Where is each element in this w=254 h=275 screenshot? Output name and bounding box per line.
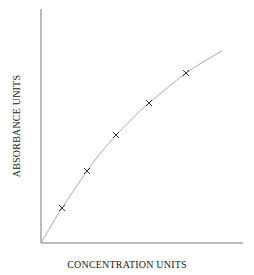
x-marker bbox=[146, 100, 152, 106]
fit-curve bbox=[41, 51, 222, 243]
x-marker bbox=[84, 168, 90, 174]
y-axis-label: ABSORBANCE UNITS bbox=[11, 75, 22, 177]
data-point-markers bbox=[59, 70, 189, 211]
x-axis-label: CONCENTRATION UNITS bbox=[0, 259, 254, 270]
x-marker bbox=[113, 132, 119, 138]
chart bbox=[0, 0, 254, 275]
x-marker bbox=[183, 70, 189, 76]
x-marker bbox=[59, 205, 65, 211]
